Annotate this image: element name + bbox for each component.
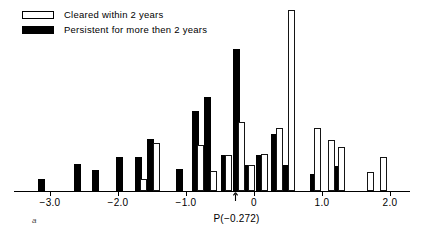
x-tick-label: −3.0 bbox=[30, 197, 70, 208]
bar-open bbox=[276, 128, 283, 190]
bar-open bbox=[225, 155, 232, 191]
bar-filled bbox=[116, 157, 123, 191]
bar-filled bbox=[92, 170, 99, 190]
bar-open bbox=[238, 122, 245, 191]
x-tick bbox=[254, 192, 255, 196]
x-tick-label: 0 bbox=[234, 197, 274, 208]
bar-open bbox=[261, 154, 268, 191]
bar-filled bbox=[176, 169, 183, 190]
bar-open bbox=[328, 140, 335, 191]
bar-open bbox=[314, 128, 321, 190]
x-tick bbox=[50, 192, 51, 196]
bar-open bbox=[153, 143, 160, 191]
p-marker-label: P(−0.272) bbox=[214, 213, 260, 224]
bar-open bbox=[210, 171, 217, 191]
bar-open bbox=[288, 10, 295, 190]
bar-open bbox=[338, 147, 345, 190]
x-tick-label: 2.0 bbox=[370, 197, 410, 208]
x-tick-label: −1.0 bbox=[166, 197, 206, 208]
x-tick bbox=[390, 192, 391, 196]
panel-label: a bbox=[32, 216, 36, 225]
x-axis-line bbox=[14, 191, 410, 192]
x-tick-label: 1.0 bbox=[302, 197, 342, 208]
bar-filled bbox=[74, 164, 81, 190]
x-tick bbox=[186, 192, 187, 196]
bar-open bbox=[140, 179, 147, 190]
x-tick bbox=[322, 192, 323, 196]
plot-area: −3.0−2.0−1.001.02.0 P(−0.272) a bbox=[0, 0, 423, 239]
bar-open bbox=[197, 145, 204, 190]
bar-open bbox=[380, 157, 387, 191]
histogram-figure: Cleared within 2 years Persistent for mo… bbox=[0, 0, 423, 239]
bar-open bbox=[248, 165, 255, 191]
p-marker-arrow-icon bbox=[232, 192, 239, 201]
x-tick-label: −2.0 bbox=[98, 197, 138, 208]
bar-open bbox=[367, 172, 374, 191]
x-tick bbox=[118, 192, 119, 196]
bar-filled bbox=[38, 179, 45, 191]
